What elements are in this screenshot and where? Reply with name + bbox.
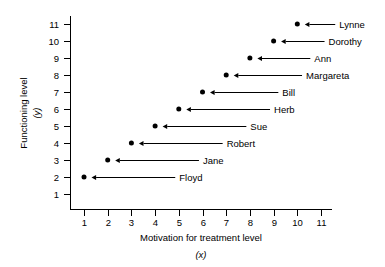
annotation-label: Jane xyxy=(203,155,224,166)
x-tick-label: 7 xyxy=(224,217,229,228)
x-tick-label: 5 xyxy=(177,217,182,228)
annotation-arrowhead-icon xyxy=(281,39,286,44)
data-point-marker xyxy=(200,90,205,95)
data-point-marker xyxy=(271,39,276,44)
annotation-label: Margareta xyxy=(306,70,350,81)
data-point-marker xyxy=(295,22,300,27)
y-tick-label: 8 xyxy=(54,70,59,81)
annotation-arrowhead-icon xyxy=(92,175,97,180)
annotation-arrowhead-icon xyxy=(139,141,144,146)
y-tick-label: 9 xyxy=(54,53,59,64)
data-point-marker xyxy=(176,107,181,112)
annotation-arrowhead-icon xyxy=(305,22,310,27)
y-tick-label: 6 xyxy=(54,104,59,115)
plot-canvas: 1234567891011 1234567891011 FloydJaneRob… xyxy=(0,0,385,267)
data-point-marker xyxy=(247,56,252,61)
x-tick-label: 4 xyxy=(153,217,158,228)
annotation-label: Robert xyxy=(227,138,256,149)
annotation-arrowhead-icon xyxy=(210,90,215,95)
y-tick-label: 3 xyxy=(54,155,59,166)
x-tick-label: 10 xyxy=(292,217,303,228)
data-point-marker xyxy=(129,141,134,146)
annotation-arrowhead-icon xyxy=(234,73,239,78)
x-axis-variable-label: (x) xyxy=(195,249,206,260)
x-tick-label: 1 xyxy=(82,217,87,228)
y-tick-label: 4 xyxy=(54,138,59,149)
data-point-marker xyxy=(224,73,229,78)
annotation-arrowhead-icon xyxy=(186,107,191,112)
y-axis-variable-label: (y) xyxy=(31,107,42,118)
x-tick-label: 11 xyxy=(317,217,327,228)
y-tick-label: 7 xyxy=(54,87,59,98)
y-tick-label: 11 xyxy=(49,19,59,30)
x-tick-label: 8 xyxy=(248,217,253,228)
y-tick-label: 10 xyxy=(48,36,59,47)
x-axis-title: Motivation for treatment level xyxy=(140,232,262,243)
x-axis-ticks: 1234567891011 xyxy=(82,210,327,229)
y-tick-label: 1 xyxy=(54,189,59,200)
point-annotations: FloydJaneRobertSueHerbBillMargaretaAnnDo… xyxy=(92,19,365,183)
annotation-arrowhead-icon xyxy=(257,56,262,61)
data-point-marker xyxy=(153,124,158,129)
x-tick-label: 3 xyxy=(129,217,134,228)
annotation-label: Sue xyxy=(250,121,267,132)
annotation-label: Floyd xyxy=(179,172,202,183)
annotation-label: Bill xyxy=(282,87,295,98)
annotation-label: Herb xyxy=(274,104,295,115)
annotation-label: Dorothy xyxy=(329,36,363,47)
scatter-plot-figure: 1234567891011 1234567891011 FloydJaneRob… xyxy=(0,0,385,267)
data-point-marker xyxy=(105,158,110,163)
annotation-arrowhead-icon xyxy=(163,124,168,129)
y-tick-label: 5 xyxy=(54,121,59,132)
y-tick-label: 2 xyxy=(54,172,59,183)
y-axis-title: Functioning level xyxy=(18,77,29,148)
data-point-marker xyxy=(82,175,87,180)
data-points xyxy=(82,22,300,180)
x-tick-label: 9 xyxy=(272,217,277,228)
annotation-label: Lynne xyxy=(339,19,365,30)
annotation-arrowhead-icon xyxy=(115,158,120,163)
x-tick-label: 2 xyxy=(106,217,111,228)
x-tick-label: 6 xyxy=(201,217,206,228)
annotation-label: Ann xyxy=(314,53,331,64)
y-axis-ticks: 1234567891011 xyxy=(48,19,70,200)
